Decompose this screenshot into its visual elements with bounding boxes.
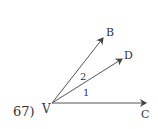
point-label-c: C bbox=[141, 108, 149, 121]
point-label-d: D bbox=[124, 49, 133, 62]
point-label-b: B bbox=[106, 26, 114, 39]
ray-vb bbox=[52, 38, 103, 103]
problem-number-label: 67) bbox=[13, 104, 35, 119]
angle-label-1: 1 bbox=[83, 87, 89, 98]
angle-diagram: 67) V B D C 2 1 bbox=[0, 0, 158, 129]
vertex-label-v: V bbox=[41, 102, 51, 116]
angle-label-2: 2 bbox=[80, 71, 86, 82]
